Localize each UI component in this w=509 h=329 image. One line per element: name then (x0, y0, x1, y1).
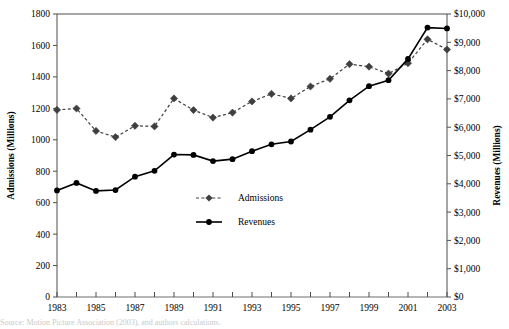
data-point-revenues (327, 114, 333, 120)
left-axis-tick-label: 1000 (31, 135, 50, 145)
right-axis-tick-label: $6,000 (454, 123, 480, 133)
x-axis-tick-label: 1991 (204, 303, 223, 313)
left-axis-tick-label: 200 (36, 261, 51, 271)
legend-marker-revenues (206, 219, 212, 225)
data-point-revenues (210, 158, 216, 164)
data-point-admissions (307, 83, 314, 90)
dual-axis-line-chart: 020040060080010001200140016001800$0$1,00… (0, 0, 509, 329)
data-point-admissions (53, 106, 60, 113)
data-point-admissions (424, 36, 431, 43)
data-point-admissions (385, 70, 392, 77)
data-point-admissions (365, 63, 372, 70)
data-point-admissions (248, 98, 255, 105)
data-point-revenues (113, 187, 119, 193)
x-axis-tick-label: 1983 (48, 303, 67, 313)
data-point-admissions (209, 114, 216, 121)
data-point-revenues (54, 188, 60, 194)
data-point-revenues (386, 77, 392, 83)
right-axis-tick-label: $5,000 (454, 151, 480, 161)
data-point-revenues (444, 26, 450, 32)
legend-marker-admissions (205, 194, 212, 201)
right-axis-title: Revenues (Millions) (492, 125, 503, 205)
right-axis-tick-label: $10,000 (454, 9, 485, 19)
data-point-revenues (230, 156, 236, 162)
chart-caption: Source: Motion Picture Association (2003… (0, 318, 509, 329)
x-axis-tick-label: 1999 (360, 303, 379, 313)
data-point-revenues (288, 139, 294, 145)
right-axis-tick-label: $8,000 (454, 66, 480, 76)
series-line-admissions (57, 39, 447, 137)
left-axis-tick-label: 800 (36, 167, 51, 177)
x-axis-tick-label: 1997 (321, 303, 340, 313)
left-axis-tick-label: 400 (36, 230, 51, 240)
right-axis-tick-label: $7,000 (454, 94, 480, 104)
left-axis-tick-label: 1600 (31, 41, 50, 51)
data-point-admissions (190, 106, 197, 113)
x-axis-tick-label: 1989 (165, 303, 184, 313)
data-point-revenues (249, 148, 255, 154)
left-axis-tick-label: 600 (36, 198, 51, 208)
right-axis-tick-label: $0 (454, 292, 464, 302)
right-axis-tick-label: $9,000 (454, 38, 480, 48)
data-point-admissions (112, 134, 119, 141)
data-point-revenues (191, 152, 197, 158)
right-axis-tick-label: $3,000 (454, 208, 480, 218)
data-point-revenues (171, 152, 177, 158)
right-axis-tick-label: $4,000 (454, 179, 480, 189)
data-point-revenues (93, 188, 99, 194)
right-axis-tick-label: $1,000 (454, 264, 480, 274)
x-axis-tick-label: 2003 (438, 303, 457, 313)
x-axis-tick-label: 2001 (399, 303, 418, 313)
series-line-revenues (57, 28, 447, 191)
left-axis-title: Admissions (Millions) (6, 111, 17, 199)
data-point-revenues (308, 127, 314, 133)
data-point-admissions (151, 123, 158, 130)
legend-label-admissions: Admissions (238, 193, 283, 203)
legend-label-revenues: Revenues (238, 217, 275, 227)
data-point-revenues (269, 141, 275, 147)
left-axis-tick-label: 1800 (31, 9, 50, 19)
data-point-admissions (443, 46, 450, 53)
x-axis-tick-label: 1987 (126, 303, 145, 313)
data-point-admissions (229, 109, 236, 116)
x-axis-tick-label: 1995 (282, 303, 301, 313)
chart-container: 020040060080010001200140016001800$0$1,00… (0, 0, 509, 329)
data-point-admissions (268, 90, 275, 97)
right-axis-tick-label: $2,000 (454, 236, 480, 246)
data-point-revenues (347, 97, 353, 103)
left-axis-tick-label: 0 (45, 292, 50, 302)
x-axis-tick-label: 1993 (243, 303, 262, 313)
data-point-admissions (170, 95, 177, 102)
data-point-revenues (74, 180, 80, 186)
data-point-admissions (287, 95, 294, 102)
data-point-revenues (405, 56, 411, 62)
data-point-admissions (131, 122, 138, 129)
x-axis-tick-label: 1985 (87, 303, 106, 313)
data-point-revenues (152, 168, 158, 174)
data-point-revenues (425, 25, 431, 31)
data-point-revenues (366, 83, 372, 89)
data-point-revenues (132, 174, 138, 180)
left-axis-tick-label: 1200 (31, 104, 50, 114)
left-axis-tick-label: 1400 (31, 72, 50, 82)
